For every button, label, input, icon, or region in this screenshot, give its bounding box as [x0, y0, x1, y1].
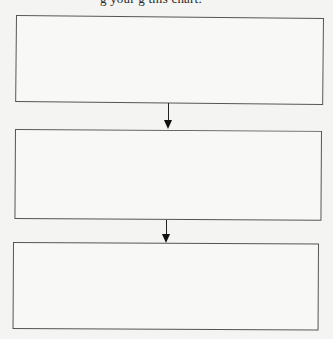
box-1-text — [28, 24, 311, 96]
arrow-2-shaft — [166, 220, 167, 235]
flowchart-box-step-1[interactable] — [15, 15, 324, 105]
arrow-2-head — [162, 234, 170, 243]
arrow-1-shaft — [168, 103, 169, 121]
cropped-caption: g your g this chart. — [100, 0, 330, 7]
flowchart-box-step-3[interactable] — [13, 242, 319, 331]
box-3-text — [26, 251, 306, 321]
arrow-1-head — [164, 120, 172, 129]
box-2-text — [28, 138, 309, 212]
flowchart-box-step-2[interactable] — [14, 129, 322, 221]
